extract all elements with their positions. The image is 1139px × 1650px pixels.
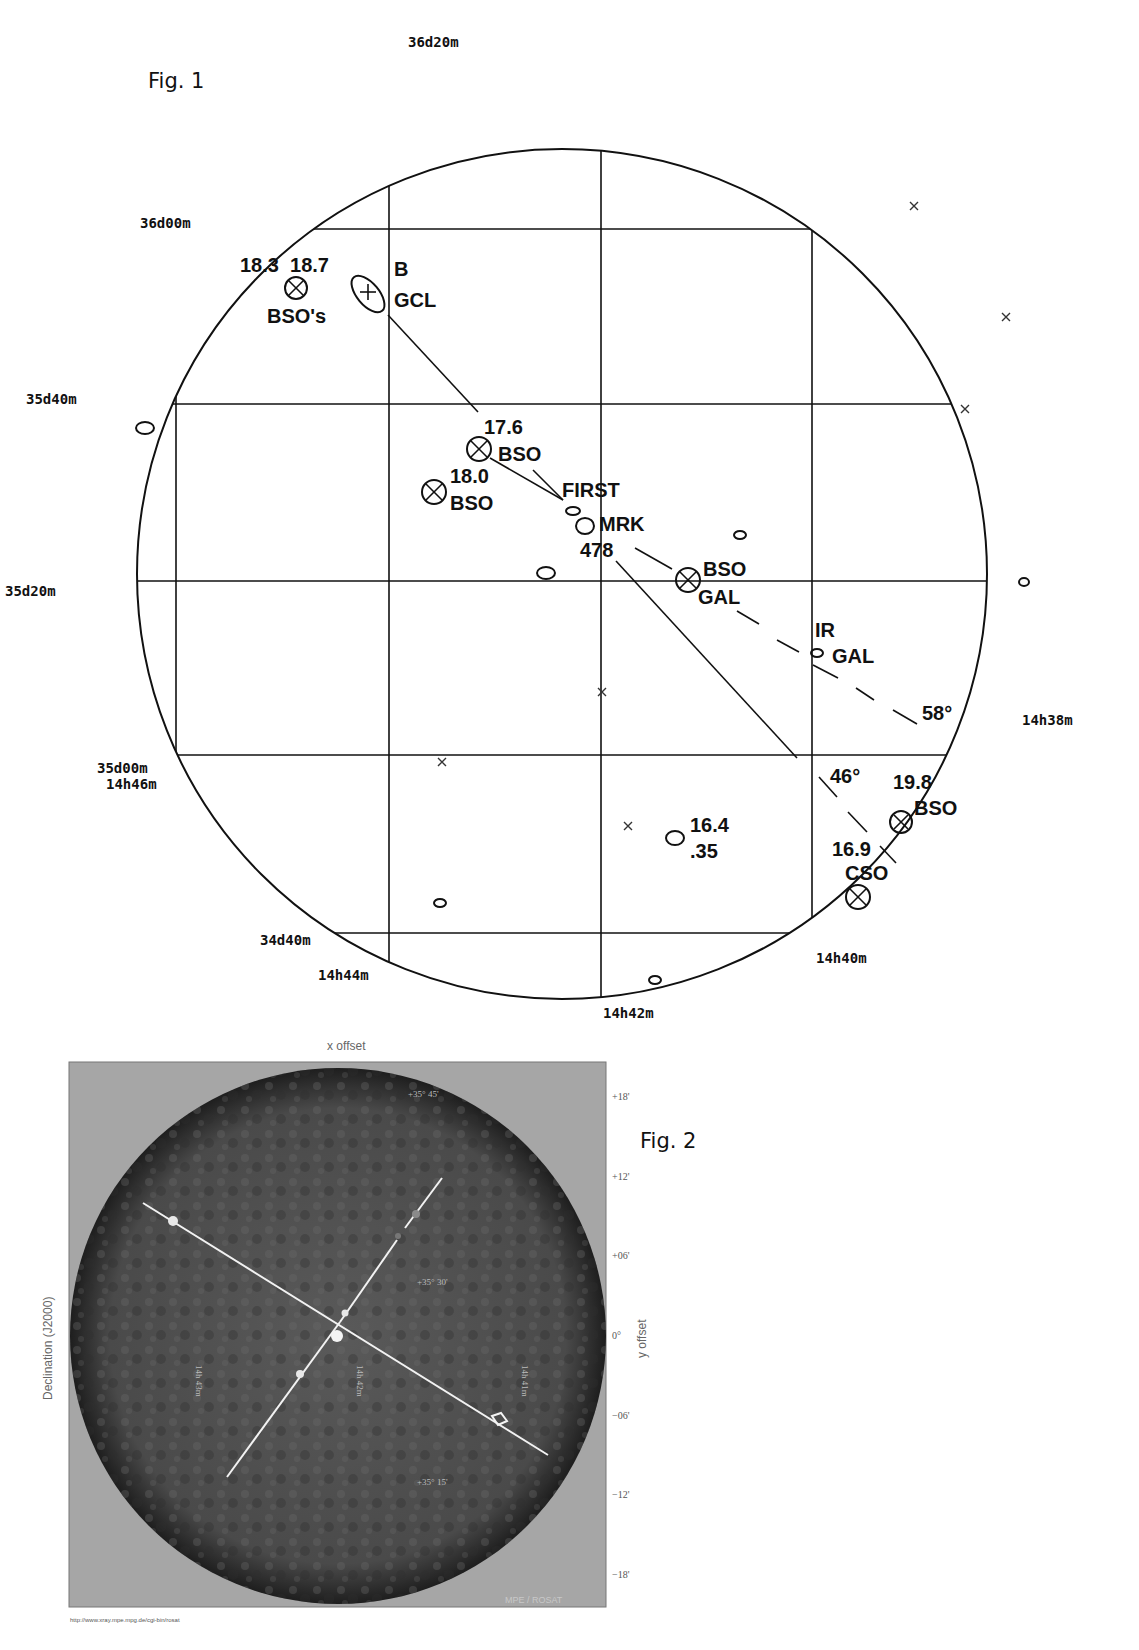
svg-text:−18': −18' xyxy=(612,1569,630,1580)
galaxy-16-4-marker xyxy=(666,831,684,845)
galaxy-cluster-ellipse xyxy=(345,270,390,318)
ra-label-14h46m: 14h46m xyxy=(106,776,157,792)
fig2: x offset +18' +12' +06' 0° −06' −12' −18… xyxy=(41,1039,696,1623)
ra-label-14h38m: 14h38m xyxy=(1022,712,1073,728)
fig1-grid xyxy=(100,50,1020,1000)
bso-marker-pair xyxy=(285,277,307,299)
bso-17-6-mag: 17.6 xyxy=(484,416,523,438)
svg-text:0°: 0° xyxy=(612,1330,621,1341)
bso-19-8-label: BSO xyxy=(914,797,957,819)
figure-canvas: Fig. 1 36d20m 36d00m 35d40m 35d20m 35d00… xyxy=(0,0,1139,1650)
dec-label-34d40m: 34d40m xyxy=(260,932,311,948)
first-label: FIRST xyxy=(562,479,620,501)
fig1-title: Fig. 1 xyxy=(148,69,204,93)
overlay-ra-43: 14h 43m xyxy=(194,1365,204,1397)
galaxy-16-4-mag: 16.4 xyxy=(690,814,730,836)
ra-label-14h44m: 14h44m xyxy=(318,967,369,983)
fig1: Fig. 1 36d20m 36d00m 35d40m 35d20m 35d00… xyxy=(5,34,1073,1021)
first-radio-source xyxy=(566,507,580,515)
declination-axis-label: Declination (J2000) xyxy=(41,1297,55,1400)
overlay-dec-45: +35° 45' xyxy=(408,1089,439,1099)
galaxy-z-label: .35 xyxy=(690,840,718,862)
overlay-dec-15: +35° 15' xyxy=(417,1477,448,1487)
angle-46-label: 46° xyxy=(830,765,860,787)
bso-pair-label: BSO's xyxy=(267,305,326,327)
svg-text:−06': −06' xyxy=(612,1410,630,1421)
angle-58-label: 58° xyxy=(922,702,952,724)
bso-18-0-label: BSO xyxy=(450,492,493,514)
x-axis-label: x offset xyxy=(327,1039,366,1053)
cso-marker-16-9 xyxy=(846,885,870,909)
overlay-ra-42: 14h 42m xyxy=(355,1365,365,1397)
overlay-ra-41: 14h 41m xyxy=(520,1365,530,1397)
svg-text:+06': +06' xyxy=(612,1250,630,1261)
gcl-b-label: B xyxy=(394,258,408,280)
mrk-label: MRK xyxy=(599,513,645,535)
ra-label-14h40m: 14h40m xyxy=(816,950,867,966)
cso-16-9-mag: 16.9 xyxy=(832,838,871,860)
y-axis-label: y offset xyxy=(635,1319,649,1358)
dec-label-36d20m: 36d20m xyxy=(408,34,459,50)
xray-ellipses xyxy=(136,422,1029,984)
mrk-number-label: 478 xyxy=(580,539,613,561)
cross-markers xyxy=(438,202,1010,830)
bso-17-6-label: BSO xyxy=(498,443,541,465)
mrk-478-marker xyxy=(576,518,594,534)
bso-marker-18-0 xyxy=(422,480,446,504)
svg-text:−12': −12' xyxy=(612,1489,630,1500)
cso-16-9-label: CSO xyxy=(845,862,888,884)
dec-label-35d40m: 35d40m xyxy=(26,391,77,407)
svg-text:+18': +18' xyxy=(612,1091,630,1102)
dec-label-35d20m: 35d20m xyxy=(5,583,56,599)
ra-label-14h42m: 14h42m xyxy=(603,1005,654,1021)
dec-label-35d00m: 35d00m xyxy=(97,760,148,776)
bso-pair-magnitudes: 18.3 18.7 xyxy=(240,254,329,276)
overlay-dec-30: +35° 30' xyxy=(417,1277,448,1287)
bso-gal-label-1: BSO xyxy=(703,558,746,580)
gcl-label: GCL xyxy=(394,289,436,311)
y-tick-labels: +18' +12' +06' 0° −06' −12' −18' xyxy=(612,1091,630,1580)
dec-label-36d00m: 36d00m xyxy=(140,215,191,231)
fig2-title: Fig. 2 xyxy=(640,1129,696,1153)
svg-text:+12': +12' xyxy=(612,1171,630,1182)
watermark: MPE / ROSAT xyxy=(505,1595,563,1605)
bso-19-8-mag: 19.8 xyxy=(893,771,932,793)
footer-url: http://www.xray.mpe.mpg.de/cgi-bin/rosat xyxy=(70,1617,180,1623)
ir-label: IR xyxy=(815,619,836,641)
bso-marker-17-6 xyxy=(467,437,491,461)
ir-gal-label: GAL xyxy=(832,645,874,667)
bso-gal-label-2: GAL xyxy=(698,586,740,608)
bso-gal-marker xyxy=(676,568,700,592)
bso-18-0-mag: 18.0 xyxy=(450,465,489,487)
